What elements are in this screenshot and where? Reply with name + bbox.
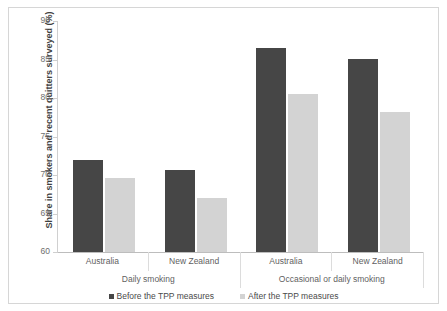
y-axis-tick-label: 90 bbox=[28, 15, 50, 25]
bar-before-tpp bbox=[256, 48, 286, 252]
y-axis-tick-label: 85 bbox=[28, 54, 50, 64]
category-label-row: AustraliaNew ZealandAustraliaNew Zealand bbox=[57, 252, 424, 271]
legend-label: Before the TPP measures bbox=[117, 291, 215, 301]
x-axis-category-label: Australia bbox=[57, 252, 149, 271]
bar-before-tpp bbox=[348, 59, 378, 252]
y-axis-tick-label: 70 bbox=[28, 169, 50, 179]
bar-before-tpp bbox=[165, 170, 195, 252]
y-axis-tick-label: 60 bbox=[28, 246, 50, 256]
legend-swatch-icon bbox=[109, 294, 114, 299]
x-axis-category-label: Australia bbox=[241, 252, 333, 271]
bar-after-tpp bbox=[105, 178, 135, 252]
x-axis-group-label: Daily smoking bbox=[57, 271, 241, 288]
plot-area bbox=[58, 21, 424, 252]
legend-item[interactable]: Before the TPP measures bbox=[109, 291, 215, 301]
chart-container: Share in smokers and recent quitters sur… bbox=[0, 0, 447, 311]
bar-after-tpp bbox=[288, 94, 318, 252]
legend-swatch-icon bbox=[240, 294, 245, 299]
bar-after-tpp bbox=[380, 112, 410, 252]
bar-after-tpp bbox=[197, 198, 227, 252]
group-label-row: Daily smokingOccasional or daily smoking bbox=[57, 271, 424, 288]
bar-before-tpp bbox=[73, 160, 103, 252]
x-axis-category-label: New Zealand bbox=[332, 252, 424, 271]
y-axis-tick-label: 75 bbox=[28, 131, 50, 141]
x-axis-group-label: Occasional or daily smoking bbox=[241, 271, 425, 288]
legend-item[interactable]: After the TPP measures bbox=[240, 291, 338, 301]
y-axis-tick-label: 80 bbox=[28, 92, 50, 102]
legend-label: After the TPP measures bbox=[248, 291, 338, 301]
y-axis-tick-label: 65 bbox=[28, 208, 50, 218]
x-axis-category-label: New Zealand bbox=[149, 252, 241, 271]
chart-legend: Before the TPP measuresAfter the TPP mea… bbox=[0, 288, 447, 304]
